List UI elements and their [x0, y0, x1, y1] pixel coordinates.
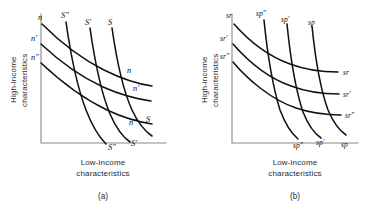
label-sr-dprime-left-b: sr″ — [220, 52, 230, 61]
label-n-prime-left-a: n′ — [31, 34, 37, 43]
panel-a-caption: (a) — [98, 192, 108, 201]
figure-container: n S″ S′ S n′ n″ n n′ n″ S S″ S′ High-inc… — [0, 0, 377, 215]
label-sp-prime-top-b: sp′ — [281, 15, 290, 24]
label-n-dprime-right-a: n″ — [129, 118, 137, 127]
curve-sp-dprime-b — [264, 20, 298, 139]
label-sp-dprime-bottom-b: sp″ — [293, 141, 304, 150]
label-S-dprime-bottom-a: S″ — [108, 143, 116, 152]
curve-n-a — [42, 24, 152, 86]
curve-sr-b — [234, 24, 338, 72]
label-S-dprime-top-a: S″ — [61, 11, 69, 20]
curve-sr-dprime-b — [233, 62, 341, 115]
curve-n-dprime-a — [41, 63, 152, 124]
curve-sp-prime-b — [287, 24, 321, 138]
label-n-prime-right-a: n′ — [133, 84, 139, 93]
label-sr-prime-right-b: sr′ — [343, 90, 351, 99]
label-S-top-a: S — [108, 18, 113, 27]
label-sr-top-b: sr — [226, 11, 232, 20]
panel-b: sr sp″ sp′ sp sr′ sr″ sr sr′ sr″ sp″ sp′… — [188, 0, 376, 215]
panel-b-xlabel-line1: Low-income — [273, 158, 318, 167]
label-sp-prime-bottom-b: sp′ — [316, 138, 325, 147]
label-n-dprime-left-a: n″ — [31, 53, 39, 62]
label-sr-right-b: sr — [343, 68, 349, 77]
panel-a-ylabel-line1: High-income — [9, 56, 18, 103]
panel-b-caption: (b) — [290, 192, 300, 201]
label-sr-dprime-right-b: sr″ — [345, 111, 355, 120]
label-n-top-a: n — [38, 13, 42, 22]
curve-sp-b — [312, 26, 346, 135]
panel-a-ylabel-line2: characteristics — [20, 54, 29, 107]
label-sp-dprime-top-b: sp″ — [256, 9, 267, 18]
panel-a-svg: n S″ S′ S n′ n″ n n′ n″ S S″ S′ High-inc… — [0, 0, 188, 215]
panel-b-ylabel-line1: High-income — [200, 56, 209, 103]
label-sp-top-b: sp — [308, 18, 315, 27]
label-S-prime-bottom-a: S′ — [131, 139, 137, 148]
curve-sr-prime-b — [233, 44, 339, 94]
panel-a-xlabel-line1: Low-income — [81, 158, 126, 167]
panel-b-ylabel-line2: characteristics — [211, 54, 220, 107]
panel-b-xlabel-line2: characteristics — [268, 169, 321, 178]
label-S-right-a: S — [146, 115, 151, 124]
label-sr-prime-left-b: sr′ — [220, 34, 228, 43]
label-S-prime-top-a: S′ — [85, 18, 91, 27]
label-n-right-a: n — [127, 66, 131, 75]
panel-b-svg: sr sp″ sp′ sp sr′ sr″ sr sr′ sr″ sp″ sp′… — [188, 0, 376, 215]
panel-a-xlabel-line2: characteristics — [76, 169, 129, 178]
panel-a: n S″ S′ S n′ n″ n n′ n″ S S″ S′ High-inc… — [0, 0, 188, 215]
label-sp-bottom-b: sp — [341, 140, 348, 149]
